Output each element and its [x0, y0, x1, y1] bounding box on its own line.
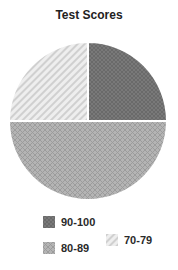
legend-item-80-89: 80-89: [43, 242, 89, 254]
legend-swatch-mid-icon: [43, 242, 55, 254]
legend-swatch-light-icon: [106, 234, 118, 246]
legend-item-70-79: 70-79: [106, 234, 152, 246]
slice-90-100: [88, 42, 167, 121]
legend-item-90-100: 90-100: [43, 216, 95, 228]
slice-80-89: [9, 121, 167, 200]
pie-chart: [0, 0, 178, 210]
pie-slices: [9, 42, 167, 200]
legend-label: 70-79: [124, 234, 152, 246]
legend-swatch-dark-icon: [43, 216, 55, 228]
slice-70-79: [9, 42, 88, 121]
legend-label: 90-100: [61, 216, 95, 228]
legend-label: 80-89: [61, 242, 89, 254]
